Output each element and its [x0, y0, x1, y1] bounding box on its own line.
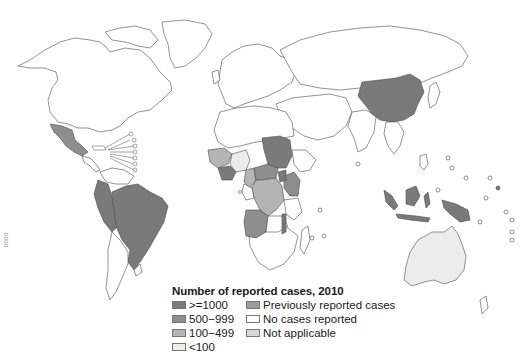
region-east-africa-horn	[292, 150, 316, 172]
region-tanzania	[284, 198, 302, 220]
region-java	[396, 214, 430, 222]
region-japan	[428, 82, 440, 108]
region-west-africa-light	[208, 148, 232, 168]
region-borneo	[406, 186, 420, 206]
legend-grid: >=1000 Previously reported cases 500−999…	[172, 298, 395, 354]
region-gabon	[242, 184, 254, 200]
map-legend: Number of reported cases, 2010 >=1000 Pr…	[172, 285, 395, 354]
region-philippines	[420, 154, 428, 170]
region-madagascar	[300, 226, 310, 254]
legend-label: <100	[189, 341, 215, 353]
legend-item-lt100: <100	[172, 340, 242, 354]
region-sudan	[262, 136, 292, 168]
legend-swatch	[172, 329, 186, 337]
region-india	[348, 110, 376, 152]
legend-item-ge1000: >=1000	[172, 298, 242, 312]
region-new-guinea	[442, 200, 470, 222]
legend-swatch	[246, 329, 260, 337]
legend-label: No cases reported	[263, 313, 357, 325]
region-australia	[404, 226, 466, 286]
legend-title: Number of reported cases, 2010	[172, 285, 395, 297]
legend-swatch	[172, 315, 186, 323]
region-central-america	[82, 156, 100, 172]
region-malawi	[282, 214, 286, 234]
region-mexico	[50, 124, 88, 156]
legend-item-100-499: 100−499	[172, 326, 242, 340]
region-sulawesi	[424, 192, 430, 208]
legend-label: Previously reported cases	[263, 299, 395, 311]
legend-label: 100−499	[189, 327, 234, 339]
region-sumatra	[384, 190, 398, 210]
legend-label: 500−999	[189, 313, 234, 325]
legend-swatch	[246, 315, 260, 323]
legend-swatch	[172, 343, 186, 351]
region-venezuela	[100, 168, 134, 184]
figure-code-mark: 0000	[3, 232, 9, 247]
legend-swatch	[172, 301, 186, 309]
caribbean-callouts	[92, 132, 137, 172]
legend-item-previously-reported: Previously reported cases	[246, 298, 395, 312]
legend-label: >=1000	[189, 299, 228, 311]
region-southeast-asia	[384, 122, 404, 154]
region-new-zealand	[480, 296, 488, 314]
region-arctic-islands	[105, 26, 158, 48]
region-greenland	[162, 20, 212, 68]
legend-item-no-cases: No cases reported	[246, 312, 395, 326]
region-uganda	[284, 172, 300, 196]
legend-item-500-999: 500−999	[172, 312, 242, 326]
region-uganda-small	[278, 170, 286, 182]
legend-swatch	[246, 301, 260, 309]
legend-label: Not applicable	[263, 327, 336, 339]
region-north-america	[18, 38, 172, 132]
legend-item-not-applicable: Not applicable	[246, 326, 395, 340]
